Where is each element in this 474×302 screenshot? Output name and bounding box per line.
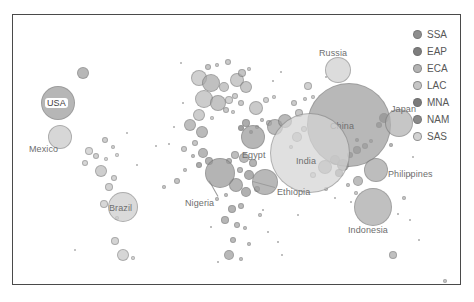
data-bubble[interactable] <box>262 209 264 211</box>
data-bubble[interactable] <box>196 162 202 168</box>
legend-item-lac[interactable]: LAC <box>413 77 469 94</box>
data-bubble[interactable] <box>249 159 257 167</box>
data-bubble[interactable] <box>303 97 307 101</box>
data-bubble[interactable] <box>238 69 246 77</box>
country-bubble-india[interactable] <box>270 113 350 193</box>
data-bubble[interactable] <box>228 205 236 213</box>
data-bubble[interactable] <box>409 219 411 221</box>
data-bubble[interactable] <box>111 175 117 181</box>
data-bubble[interactable] <box>111 145 115 149</box>
data-bubble[interactable] <box>443 279 447 283</box>
data-bubble[interactable] <box>104 157 108 161</box>
data-bubble[interactable] <box>77 67 89 79</box>
data-bubble[interactable] <box>180 62 182 64</box>
country-bubble-philippines[interactable] <box>364 158 388 182</box>
data-bubble[interactable] <box>239 257 243 261</box>
data-bubble[interactable] <box>224 193 228 197</box>
data-bubble[interactable] <box>136 164 138 166</box>
data-bubble[interactable] <box>162 185 166 189</box>
data-bubble[interactable] <box>183 168 187 172</box>
data-bubble[interactable] <box>219 82 229 92</box>
data-bubble[interactable] <box>196 126 208 138</box>
legend-item-eca[interactable]: ECA <box>413 60 469 77</box>
data-bubble[interactable] <box>334 197 336 199</box>
country-bubble-egypt[interactable] <box>241 125 265 149</box>
data-bubble[interactable] <box>191 154 195 158</box>
data-bubble[interactable] <box>215 197 219 201</box>
data-bubble[interactable] <box>217 261 219 263</box>
data-bubble[interactable] <box>205 64 211 70</box>
data-bubble[interactable] <box>397 213 399 215</box>
legend-item-sas[interactable]: SAS <box>413 128 469 145</box>
data-bubble[interactable] <box>155 145 157 147</box>
data-bubble[interactable] <box>126 132 128 134</box>
data-bubble[interactable] <box>291 100 297 106</box>
data-bubble[interactable] <box>102 137 108 143</box>
data-bubble[interactable] <box>346 183 350 187</box>
data-bubble[interactable] <box>263 97 269 103</box>
data-bubble[interactable] <box>223 107 229 113</box>
data-bubble[interactable] <box>389 143 393 147</box>
data-bubble[interactable] <box>249 101 263 115</box>
legend-item-ssa[interactable]: SSA <box>413 26 469 43</box>
data-bubble[interactable] <box>243 226 247 230</box>
data-bubble[interactable] <box>238 203 244 209</box>
data-bubble[interactable] <box>193 109 205 121</box>
data-bubble[interactable] <box>95 165 107 177</box>
data-bubble[interactable] <box>277 241 279 243</box>
data-bubble[interactable] <box>100 200 108 208</box>
data-bubble[interactable] <box>238 100 244 106</box>
data-bubble[interactable] <box>93 153 99 159</box>
data-bubble[interactable] <box>247 242 251 246</box>
data-bubble[interactable] <box>281 254 283 256</box>
data-bubble[interactable] <box>111 237 119 245</box>
data-bubble[interactable] <box>350 201 352 203</box>
data-bubble[interactable] <box>258 213 262 217</box>
data-bubble[interactable] <box>181 146 187 152</box>
data-bubble[interactable] <box>85 147 93 155</box>
data-bubble[interactable] <box>131 256 135 260</box>
data-bubble[interactable] <box>105 183 113 191</box>
data-bubble[interactable] <box>260 118 264 122</box>
data-bubble[interactable] <box>272 80 274 82</box>
data-bubble[interactable] <box>237 167 243 173</box>
data-bubble[interactable] <box>231 110 235 114</box>
data-bubble[interactable] <box>182 102 184 104</box>
country-bubble-ethiopia[interactable] <box>252 169 278 195</box>
data-bubble[interactable] <box>418 239 420 241</box>
data-bubble[interactable] <box>210 116 214 120</box>
data-bubble[interactable] <box>267 231 269 233</box>
data-bubble[interactable] <box>280 71 282 73</box>
data-bubble[interactable] <box>272 95 276 99</box>
data-bubble[interactable] <box>224 250 234 260</box>
data-bubble[interactable] <box>247 67 251 71</box>
data-bubble[interactable] <box>230 237 236 243</box>
data-bubble[interactable] <box>232 93 238 99</box>
legend-item-mna[interactable]: MNA <box>413 94 469 111</box>
data-bubble[interactable] <box>184 119 196 131</box>
data-bubble[interactable] <box>297 214 299 216</box>
data-bubble[interactable] <box>117 249 129 261</box>
data-bubble[interactable] <box>241 187 251 197</box>
data-bubble[interactable] <box>210 226 212 228</box>
data-bubble[interactable] <box>234 222 240 228</box>
legend-item-eap[interactable]: EAP <box>413 43 469 60</box>
data-bubble[interactable] <box>173 126 175 128</box>
country-bubble-russia[interactable] <box>325 57 351 83</box>
data-bubble[interactable] <box>174 178 180 184</box>
data-bubble[interactable] <box>192 140 198 146</box>
data-bubble[interactable] <box>402 196 406 200</box>
data-bubble[interactable] <box>389 251 397 259</box>
data-bubble[interactable] <box>304 82 312 90</box>
data-bubble[interactable] <box>231 151 239 159</box>
data-bubble[interactable] <box>168 143 170 145</box>
data-bubble[interactable] <box>221 216 229 224</box>
legend-item-nam[interactable]: NAM <box>413 111 469 128</box>
data-bubble[interactable] <box>215 63 219 67</box>
data-bubble[interactable] <box>74 249 76 251</box>
data-bubble[interactable] <box>240 81 252 93</box>
data-bubble[interactable] <box>82 160 88 166</box>
country-bubble-indonesia[interactable] <box>354 188 392 226</box>
data-bubble[interactable] <box>311 95 315 99</box>
country-bubble-nigeria[interactable] <box>205 158 235 188</box>
